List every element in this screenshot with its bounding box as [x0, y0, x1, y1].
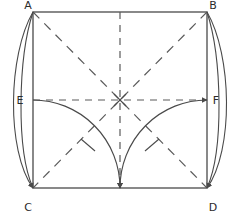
- vertex-label-c: C: [24, 201, 32, 214]
- tick-on-arc-e: [81, 139, 95, 151]
- geometry-diagram: A B C D E F: [0, 0, 235, 217]
- figure-svg: A B C D E F: [0, 0, 235, 217]
- tick-on-arc-f: [145, 139, 159, 151]
- vertex-label-a: A: [24, 0, 32, 12]
- vertex-label-d: D: [209, 201, 217, 214]
- vertex-label-f: F: [213, 94, 219, 107]
- vertex-label-b: B: [209, 0, 217, 12]
- vertex-label-e: E: [17, 94, 24, 107]
